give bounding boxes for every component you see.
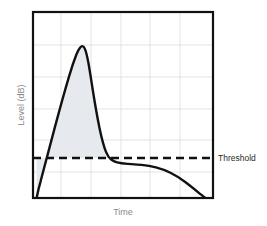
threshold-label: Threshold <box>218 153 256 163</box>
y-axis-label: Level (dB) <box>16 84 26 125</box>
x-axis-label: Time <box>113 207 133 217</box>
chart-figure: Level (dB) Time Threshold <box>0 0 267 226</box>
level-vs-time-chart: Level (dB) Time Threshold <box>0 0 267 226</box>
